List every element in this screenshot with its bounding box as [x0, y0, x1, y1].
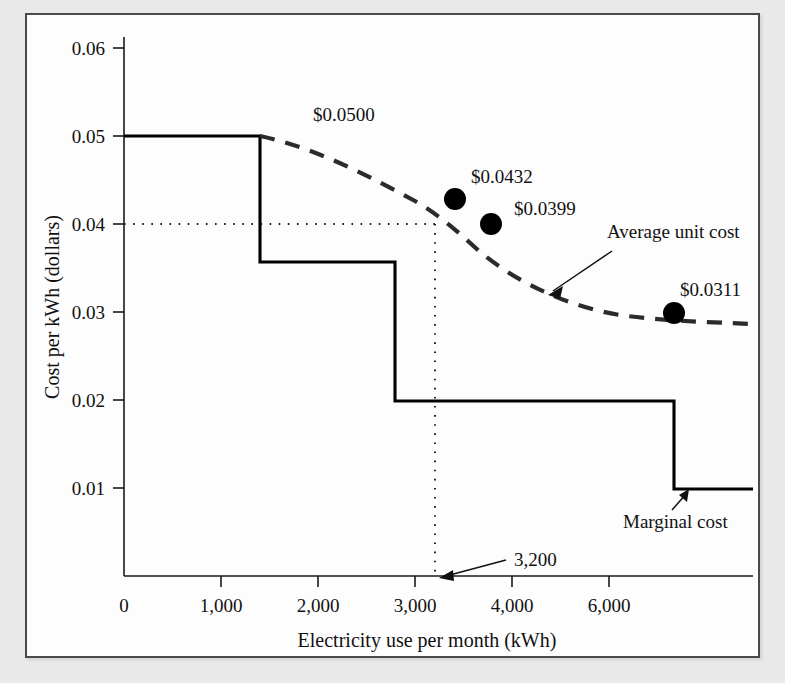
y-tick-label-0.03: 0.03	[72, 302, 105, 323]
data-point-0311[interactable]	[663, 302, 685, 324]
marginal-cost-line	[124, 136, 753, 489]
x-tick-label-3000: 3,000	[394, 595, 437, 616]
annotation-marginal-cost-label: Marginal cost	[623, 511, 728, 532]
y-tick-label-0.02: 0.02	[72, 390, 105, 411]
value-labels-group: $0.0500 $0.0432 $0.0399 $0.0311	[313, 104, 741, 300]
y-tick-label-0.04: 0.04	[72, 214, 106, 235]
x-tick-label-0: 0	[119, 595, 129, 616]
chart-panel: 0.06 0.05 0.04 0.03 0.02 0.01 0 1,000 2,…	[25, 13, 760, 658]
annotation-x-3200-label: 3,200	[514, 549, 557, 570]
y-tick-label-0.01: 0.01	[72, 478, 105, 499]
x-tick-label-6000: 6,000	[588, 595, 631, 616]
data-point-0399[interactable]	[480, 213, 502, 235]
axes-group	[113, 37, 753, 587]
annotation-x-3200-leader	[446, 560, 506, 576]
figure-root: 0.06 0.05 0.04 0.03 0.02 0.01 0 1,000 2,…	[0, 0, 785, 683]
y-tick-labels: 0.06 0.05 0.04 0.03 0.02 0.01	[72, 38, 106, 499]
value-label-0432: $0.0432	[471, 166, 533, 187]
guide-lines-group	[124, 224, 435, 576]
annotation-marginal-cost: Marginal cost	[623, 489, 728, 532]
electricity-cost-chart: 0.06 0.05 0.04 0.03 0.02 0.01 0 1,000 2,…	[27, 15, 758, 656]
y-tick-label-0.06: 0.06	[72, 38, 105, 59]
x-tick-label-4000: 4,000	[491, 595, 534, 616]
annotation-average-unit-cost-leader	[553, 251, 612, 291]
annotation-average-unit-cost-label: Average unit cost	[607, 221, 740, 242]
value-label-0500: $0.0500	[313, 104, 375, 125]
x-tick-label-2000: 2,000	[297, 595, 340, 616]
value-label-0399: $0.0399	[514, 198, 576, 219]
x-axis-title: Electricity use per month (kWh)	[298, 629, 557, 652]
y-axis-title: Cost per kWh (dollars)	[41, 215, 64, 399]
data-point-0432[interactable]	[444, 188, 466, 210]
y-tick-label-0.05: 0.05	[72, 126, 105, 147]
value-label-0311: $0.0311	[680, 279, 741, 300]
x-tick-labels: 0 1,000 2,000 3,000 4,000 6,000	[119, 595, 630, 616]
x-tick-label-1000: 1,000	[200, 595, 243, 616]
